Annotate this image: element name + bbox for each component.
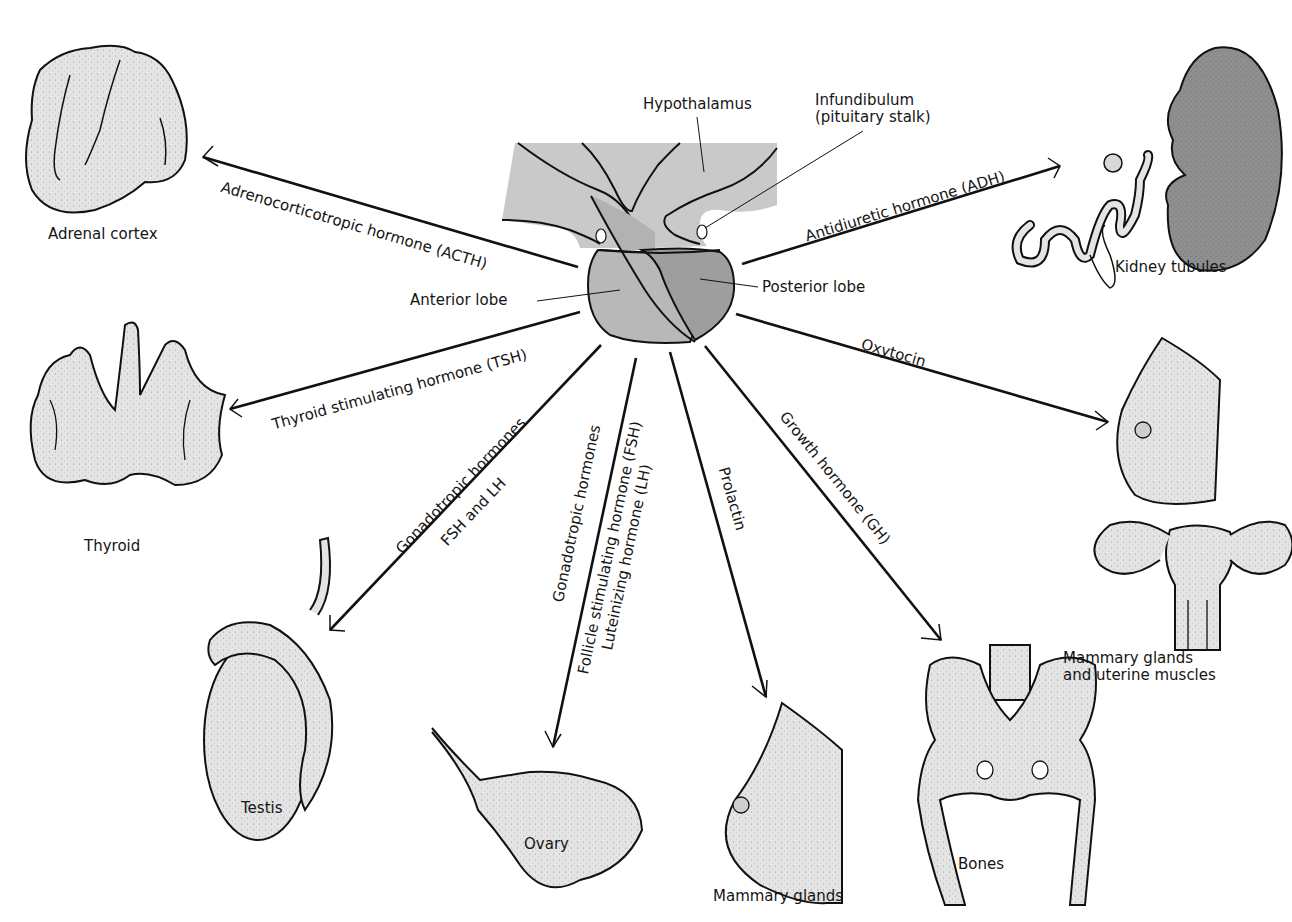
- label-target-mammary: Mammary glands: [713, 888, 843, 905]
- label-anterior-lobe: Anterior lobe: [410, 292, 507, 309]
- label-target-kidney: Kidney tubules: [1115, 259, 1227, 276]
- pituitary-diagram: [0, 0, 1292, 922]
- breast-oxytocin-illustration: [1117, 338, 1220, 504]
- label-infundibulum-line1: Infundibulum: [815, 92, 931, 109]
- label-posterior-lobe: Posterior lobe: [762, 279, 865, 296]
- arrow-gh: [705, 346, 941, 640]
- thyroid-illustration: [31, 322, 225, 485]
- uterus-illustration: [1094, 522, 1292, 650]
- label-hypothalamus: Hypothalamus: [643, 96, 752, 113]
- label-target-adrenal: Adrenal cortex: [48, 226, 158, 243]
- label-target-ovary: Ovary: [524, 836, 569, 853]
- label-target-mammary-uterine-line2: and uterine muscles: [1063, 667, 1216, 684]
- label-infundibulum: Infundibulum (pituitary stalk): [815, 92, 931, 127]
- adrenal-cortex-illustration: [26, 46, 187, 213]
- label-target-mammary-uterine: Mammary glands and uterine muscles: [1063, 650, 1216, 685]
- mammary-gland-illustration: [726, 703, 842, 903]
- ovary-illustration: [432, 728, 642, 887]
- label-target-testis: Testis: [241, 800, 283, 817]
- arrow-tsh: [230, 312, 580, 417]
- testis-illustration: [204, 538, 332, 840]
- label-infundibulum-line2: (pituitary stalk): [815, 109, 931, 126]
- label-target-bones: Bones: [958, 856, 1004, 873]
- label-target-mammary-uterine-line1: Mammary glands: [1063, 650, 1216, 667]
- label-target-thyroid: Thyroid: [84, 538, 140, 555]
